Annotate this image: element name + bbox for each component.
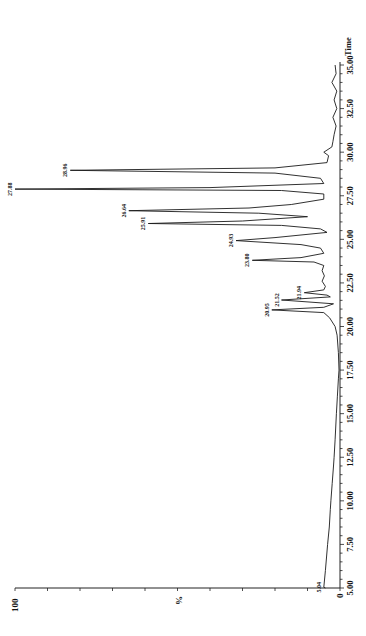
y-max-label: 100: [10, 598, 20, 612]
peak-label: 5.04: [316, 582, 322, 593]
time-tick-label: 30.00: [345, 143, 355, 162]
time-tick-label: 15.00: [345, 404, 355, 423]
time-tick-label: 20.00: [345, 317, 355, 336]
peak-label: 23.80: [244, 254, 250, 268]
time-tick-label: 32.50: [345, 99, 355, 118]
chromatogram-trace: [15, 65, 339, 588]
y-min-label: 0: [335, 593, 345, 598]
time-tick-label: 12.50: [345, 448, 355, 467]
peak-label: 24.93: [228, 234, 234, 248]
peak-label: 20.95: [264, 303, 270, 317]
time-tick-label: 7.50: [345, 537, 355, 552]
peak-labels: 5.0420.9521.5221.9423.8024.9325.9126.642…: [7, 164, 322, 593]
time-tick-label: 35.00: [345, 55, 355, 74]
peak-label: 25.91: [140, 217, 146, 231]
time-axis-title: Time: [343, 37, 353, 56]
peak-label: 27.88: [7, 182, 13, 196]
peak-label: 21.94: [296, 286, 302, 300]
percent-axis-title: %: [174, 596, 184, 605]
peak-label: 28.96: [62, 164, 68, 178]
axes: 5.007.5010.0012.5015.0017.5020.0022.5025…: [15, 55, 355, 595]
time-tick-label: 27.50: [345, 186, 355, 205]
time-tick-label: 22.50: [345, 273, 355, 292]
peak-label: 21.52: [274, 293, 280, 307]
peak-label: 26.64: [121, 204, 127, 218]
chromatogram-chart: 5.007.5010.0012.5015.0017.5020.0022.5025…: [0, 0, 366, 636]
time-tick-label: 17.50: [345, 361, 355, 380]
time-tick-label: 25.00: [345, 230, 355, 249]
time-ticks: 5.007.5010.0012.5015.0017.5020.0022.5025…: [340, 55, 355, 595]
time-tick-label: 5.00: [345, 581, 355, 596]
trace-line: [15, 65, 339, 588]
time-tick-label: 10.00: [345, 491, 355, 510]
